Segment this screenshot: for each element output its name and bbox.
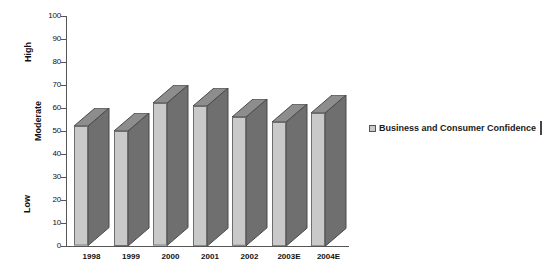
y-axis-tick [61, 154, 67, 155]
y-axis-tick-label: 20 [35, 196, 61, 204]
bar [114, 113, 150, 246]
y-axis-tick [61, 108, 67, 109]
bar-3d-shape [311, 95, 348, 248]
bar-3d-shape [74, 108, 111, 248]
y-axis-tick-label: 30 [35, 173, 61, 181]
y-axis-category-label: Low [22, 195, 32, 213]
y-axis-tick-label: 100 [35, 12, 61, 20]
bar [232, 99, 268, 246]
bar [74, 108, 110, 246]
bar [153, 85, 189, 246]
y-axis-tick-label-wrap: 10 [28, 219, 61, 227]
y-axis-tick-label: 0 [35, 242, 61, 250]
y-axis-tick-label-wrap: 0 [28, 242, 61, 250]
bar-3d-shape [114, 113, 151, 248]
y-axis-tick-label-wrap: 40 [28, 150, 61, 158]
bar-chart: 0102030405060708090100 LowModerateHigh 1… [0, 0, 559, 274]
y-axis-tick [61, 16, 67, 17]
y-axis-tick [61, 131, 67, 132]
bar-3d-shape [272, 104, 309, 248]
y-axis-tick [61, 200, 67, 201]
y-axis-category-label: Moderate [33, 101, 43, 141]
bar-3d-shape [153, 85, 190, 248]
legend-item-label: Business and Consumer Confidence [379, 123, 536, 133]
y-axis-tick [61, 39, 67, 40]
y-axis-tick-label: 90 [35, 35, 61, 43]
y-axis-tick-label-wrap: 20 [28, 196, 61, 204]
x-axis-label: 2004E [303, 252, 354, 261]
y-axis-tick [61, 85, 67, 86]
bar [311, 95, 347, 246]
legend-swatch-icon [369, 125, 376, 132]
y-axis-tick-label-wrap: 30 [28, 173, 61, 181]
y-axis-tick-label: 40 [35, 150, 61, 158]
bar-3d-shape [193, 88, 230, 248]
y-axis-tick [61, 177, 67, 178]
y-axis-category-label: High [23, 42, 33, 62]
bar [193, 88, 229, 246]
bar [272, 104, 308, 246]
y-axis-tick-label: 80 [35, 58, 61, 66]
y-axis-tick-label: 70 [35, 81, 61, 89]
y-axis-tick-label-wrap: 100 [28, 12, 61, 20]
bar-3d-shape [232, 99, 269, 248]
y-axis-tick-label-wrap: 70 [28, 81, 61, 89]
y-axis-tick-label: 10 [35, 219, 61, 227]
x-axis-line [66, 246, 349, 247]
y-axis-tick [61, 223, 67, 224]
chart-legend: Business and Consumer Confidence [369, 121, 542, 135]
y-axis-tick [61, 62, 67, 63]
